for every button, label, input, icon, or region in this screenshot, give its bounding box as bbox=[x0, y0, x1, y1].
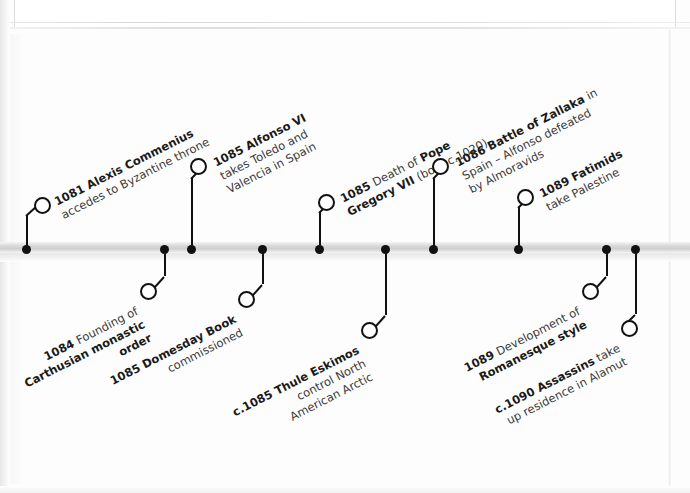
connector-stem bbox=[385, 250, 387, 315]
connector-stem bbox=[319, 212, 321, 247]
event-label-thule-eskimos: c.1085 Thule Eskimos control North Ameri… bbox=[230, 343, 375, 447]
timeline-axis bbox=[0, 240, 690, 262]
timeline-page: 1081 Alexis Commenius accedes to Byzanti… bbox=[0, 0, 690, 493]
event-detail-line: accedes to Byzantine throne bbox=[59, 135, 212, 223]
connector-stem bbox=[635, 250, 637, 314]
event-node-ring bbox=[190, 158, 207, 175]
scan-fold-line-2 bbox=[0, 27, 690, 29]
connector-stem bbox=[518, 207, 520, 247]
event-node-ring bbox=[34, 197, 51, 214]
event-node-ring bbox=[432, 158, 449, 175]
connector-stem bbox=[26, 215, 28, 247]
scan-fold-line-1 bbox=[0, 22, 690, 23]
event-node-ring bbox=[621, 320, 638, 337]
event-node-ring bbox=[517, 189, 534, 206]
event-node-ring bbox=[318, 194, 335, 211]
event-node-ring bbox=[361, 322, 378, 339]
event-node-ring bbox=[582, 283, 599, 300]
connector-stem bbox=[191, 178, 193, 247]
page-edge-bottom bbox=[0, 486, 690, 493]
event-node-ring bbox=[140, 283, 157, 300]
event-label-alfonso-vi: 1085 Alfonso VI takes Toledo and Valenci… bbox=[211, 111, 322, 197]
connector-stem bbox=[164, 250, 166, 276]
connector-stem bbox=[262, 250, 264, 284]
event-label-alexis-commenius: 1081 Alexis Commenius accedes to Byzanti… bbox=[52, 121, 212, 222]
timeline-axis-shadow bbox=[0, 253, 690, 262]
connector-stem bbox=[606, 250, 608, 276]
event-node-ring bbox=[238, 291, 255, 308]
connector-stem bbox=[433, 178, 435, 247]
timeline-axis-bar bbox=[0, 242, 690, 253]
